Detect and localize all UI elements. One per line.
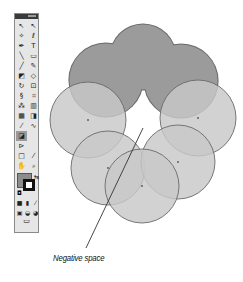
center-point [87,119,89,121]
center-point [141,185,143,187]
center-point [197,117,199,119]
circle-artwork[interactable] [50,23,236,223]
artboard-canvas[interactable] [0,0,243,282]
center-point [177,161,179,163]
center-point [107,167,109,169]
negative-space-label: Negative space [53,252,104,263]
